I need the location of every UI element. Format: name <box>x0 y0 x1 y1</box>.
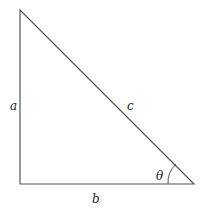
side-b-label: b <box>92 192 100 206</box>
angle-arc <box>168 164 176 184</box>
triangle <box>20 10 194 184</box>
right-triangle-diagram: a b c θ <box>0 0 206 210</box>
side-c-label: c <box>127 99 134 113</box>
angle-theta-label: θ <box>156 169 164 183</box>
side-a-label: a <box>10 99 17 113</box>
